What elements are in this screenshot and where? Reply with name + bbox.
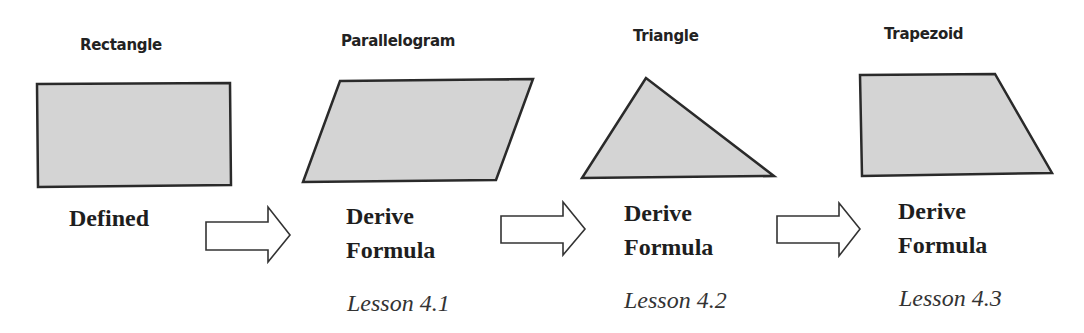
- rectangle-shape: [37, 83, 231, 187]
- trapezoid-shape: [860, 74, 1052, 176]
- shape-label-parallelogram: Parallelogram: [341, 32, 455, 50]
- status-derive-trapezoid: Derive Formula: [898, 194, 987, 262]
- right-arrow-icon: [501, 202, 585, 255]
- right-arrow-icon: [206, 207, 290, 262]
- status-defined: Defined: [69, 201, 149, 235]
- shape-label-rectangle: Rectangle: [80, 36, 162, 54]
- status-derive-triangle: Derive Formula: [624, 196, 713, 264]
- lesson-ref-parallelogram: Lesson 4.1: [347, 290, 450, 317]
- parallelogram-shape: [303, 79, 533, 182]
- status-derive-parallelogram: Derive Formula: [346, 199, 435, 267]
- status-line-derive: Derive: [898, 194, 987, 228]
- status-line-derive: Derive: [624, 196, 713, 230]
- right-arrow-icon: [777, 203, 860, 256]
- shape-label-trapezoid: Trapezoid: [884, 25, 963, 43]
- lesson-ref-trapezoid: Lesson 4.3: [899, 285, 1002, 312]
- lesson-ref-triangle: Lesson 4.2: [624, 287, 727, 314]
- diagram-canvas: [0, 0, 1084, 333]
- triangle-shape: [582, 78, 774, 178]
- shape-label-triangle: Triangle: [633, 27, 699, 45]
- status-line-formula: Formula: [624, 230, 713, 264]
- status-line-derive: Derive: [346, 199, 435, 233]
- status-line-formula: Formula: [898, 228, 987, 262]
- status-line-formula: Formula: [346, 233, 435, 267]
